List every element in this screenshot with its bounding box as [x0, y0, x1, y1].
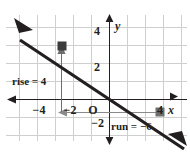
origin-label: O	[88, 103, 97, 117]
x-axis-label: x	[167, 103, 174, 117]
y-tick-label-neg2: −2	[91, 116, 104, 130]
x-tick-label-neg4: −4	[33, 103, 46, 117]
rise-label: rise = 4	[12, 75, 47, 87]
run-label: run = −6	[111, 120, 152, 132]
graph-figure: 4 2 −2 −4 −2 4 O y x rise = 4 run = −6	[0, 0, 190, 152]
y-axis-label: y	[113, 19, 121, 33]
x-tick-label-4: 4	[157, 103, 163, 117]
y-tick-label-2: 2	[94, 60, 100, 74]
coordinate-plane-svg: 4 2 −2 −4 −2 4 O y x rise = 4 run = −6	[0, 0, 190, 152]
data-point-marker-1	[58, 42, 67, 51]
y-tick-label-4: 4	[94, 24, 100, 38]
x-tick-label-neg2: −2	[64, 103, 77, 117]
